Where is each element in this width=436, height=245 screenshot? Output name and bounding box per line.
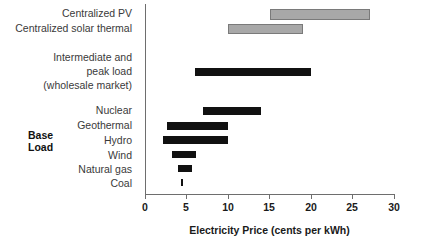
row-label-intermediate-line3: (wholesale market) <box>43 80 132 92</box>
row-label-geothermal: Geothermal <box>77 120 132 132</box>
x-tick-20 <box>311 194 312 199</box>
row-label-coal: Coal <box>110 178 132 190</box>
x-tick-label-10: 10 <box>222 201 234 213</box>
group-label-base-load-line2: Load <box>28 141 53 153</box>
x-tick-label-0: 0 <box>142 201 148 213</box>
bar-centralized-solar-thermal <box>228 24 303 34</box>
bar-nuclear <box>203 107 261 115</box>
row-label-natural-gas: Natural gas <box>78 164 132 176</box>
electricity-price-range-chart: 0 5 10 15 20 25 30 Electricity Price (ce… <box>0 0 436 245</box>
bar-coal <box>181 179 184 186</box>
bar-centralized-pv <box>270 9 370 20</box>
row-label-hydro: Hydro <box>104 135 132 147</box>
bar-wind <box>172 151 196 158</box>
x-axis-title: Electricity Price (cents per kWh) <box>145 224 394 236</box>
x-tick-label-25: 25 <box>346 201 358 213</box>
bar-hydro <box>163 136 229 144</box>
group-label-base-load-line1: Base <box>28 129 53 141</box>
row-label-centralized-pv: Centralized PV <box>62 8 132 20</box>
x-tick-label-20: 20 <box>305 201 317 213</box>
bar-geothermal <box>167 122 229 130</box>
row-label-intermediate-line2: peak load <box>86 66 132 78</box>
x-tick-15 <box>269 194 270 199</box>
x-tick-10 <box>228 194 229 199</box>
x-tick-5 <box>186 194 187 199</box>
x-tick-label-30: 30 <box>388 201 400 213</box>
bar-intermediate-peak-load <box>195 68 311 76</box>
row-label-wind: Wind <box>108 150 132 162</box>
row-label-intermediate-line1: Intermediate and <box>53 52 132 64</box>
x-tick-label-5: 5 <box>183 201 189 213</box>
y-axis-line <box>145 4 146 194</box>
x-tick-0 <box>145 194 146 199</box>
x-tick-25 <box>352 194 353 199</box>
row-label-centralized-solar-thermal: Centralized solar thermal <box>15 23 132 35</box>
x-tick-30 <box>394 194 395 199</box>
x-tick-label-15: 15 <box>263 201 275 213</box>
row-label-nuclear: Nuclear <box>96 105 132 117</box>
bar-natural-gas <box>178 165 192 172</box>
